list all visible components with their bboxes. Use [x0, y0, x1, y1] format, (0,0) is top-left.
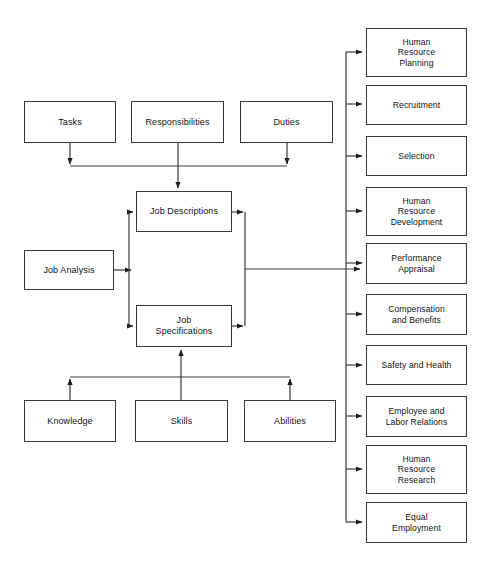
node-safety-health-label: Safety and Health: [378, 360, 454, 370]
node-job-analysis-label: Job Analysis: [40, 265, 97, 276]
node-hr-research-label: Human Resource Research: [395, 454, 439, 484]
node-employee-labor-relations-label: Employee and Labor Relations: [383, 406, 451, 426]
node-responsibilities[interactable]: Responsibilities: [131, 101, 224, 143]
node-skills[interactable]: Skills: [135, 400, 228, 442]
diagram-canvas: Tasks Responsibilities Duties Job Analys…: [0, 0, 486, 571]
node-performance-appraisal[interactable]: Performance Appraisal: [366, 243, 467, 284]
node-recruitment[interactable]: Recruitment: [366, 85, 467, 125]
node-hr-development[interactable]: Human Resource Development: [366, 187, 467, 236]
node-responsibilities-label: Responsibilities: [142, 117, 212, 128]
node-duties-label: Duties: [270, 117, 302, 128]
node-compensation-benefits-label: Compensation and Benefits: [385, 304, 448, 324]
node-equal-employment-label: Equal Employment: [389, 512, 444, 532]
node-skills-label: Skills: [168, 416, 196, 427]
node-selection-label: Selection: [395, 151, 437, 161]
node-hr-research[interactable]: Human Resource Research: [366, 445, 467, 494]
node-abilities-label: Abilities: [271, 416, 309, 427]
node-equal-employment[interactable]: Equal Employment: [366, 502, 467, 543]
node-job-analysis[interactable]: Job Analysis: [24, 250, 114, 290]
node-job-specifications[interactable]: Job Specifications: [136, 305, 232, 347]
node-performance-appraisal-label: Performance Appraisal: [388, 253, 444, 273]
node-knowledge[interactable]: Knowledge: [24, 400, 116, 442]
node-duties[interactable]: Duties: [240, 101, 333, 143]
node-employee-labor-relations[interactable]: Employee and Labor Relations: [366, 396, 467, 437]
node-selection[interactable]: Selection: [366, 136, 467, 176]
node-tasks-label: Tasks: [55, 117, 85, 128]
node-knowledge-label: Knowledge: [44, 416, 95, 427]
node-job-descriptions-label: Job Descriptions: [147, 206, 221, 217]
node-hr-development-label: Human Resource Development: [388, 196, 446, 226]
node-safety-health[interactable]: Safety and Health: [366, 345, 467, 385]
node-recruitment-label: Recruitment: [390, 100, 443, 110]
node-abilities[interactable]: Abilities: [244, 400, 336, 442]
node-hr-planning[interactable]: Human Resource Planning: [366, 28, 467, 77]
node-job-specifications-label: Job Specifications: [153, 315, 216, 336]
node-tasks[interactable]: Tasks: [24, 101, 116, 143]
node-hr-planning-label: Human Resource Planning: [395, 37, 439, 67]
node-job-descriptions[interactable]: Job Descriptions: [136, 191, 232, 232]
node-compensation-benefits[interactable]: Compensation and Benefits: [366, 294, 467, 335]
